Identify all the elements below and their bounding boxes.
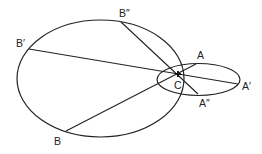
small-ellipse	[157, 64, 240, 96]
label-b: B	[54, 135, 61, 147]
label-b2: B″	[119, 7, 130, 19]
label-a: A	[197, 49, 204, 61]
ellipse-diagram: B″ B′ A C A′ A″ B	[0, 0, 262, 154]
chord-b1-a1	[29, 49, 238, 84]
label-a2: A″	[199, 97, 210, 109]
label-c: C	[174, 79, 182, 91]
label-a1: A′	[242, 80, 251, 92]
large-ellipse	[17, 20, 184, 137]
label-b1: B′	[16, 37, 25, 49]
